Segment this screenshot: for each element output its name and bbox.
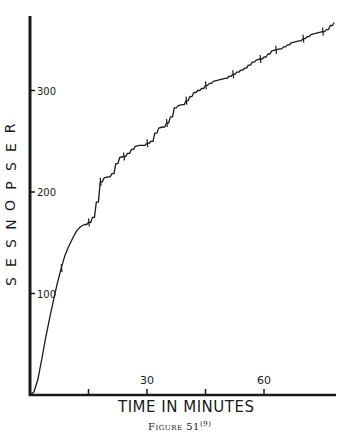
reinforcement-marks <box>61 28 323 272</box>
y-axis-label-letter: P <box>2 182 19 190</box>
y-axis-label-letter: S <box>2 239 19 248</box>
reinforcement-pip <box>260 55 261 63</box>
caption-text: Figure 51 <box>148 421 200 432</box>
y-axis-label-letter: R <box>2 124 19 134</box>
reinforcement-pip <box>323 28 324 36</box>
y-axis-label: RESPONSES <box>2 120 20 290</box>
x-tick-label: 60 <box>257 374 271 387</box>
reinforcement-pip <box>233 70 234 78</box>
response-curve <box>30 23 334 396</box>
y-axis-label-letter: S <box>2 162 19 171</box>
y-axis-label-letter: N <box>2 219 19 229</box>
figure-caption: Figure 51(9) <box>148 420 211 432</box>
y-axis-label-letter: S <box>2 277 19 286</box>
reinforcement-pip <box>61 264 62 272</box>
y-tick-label: 300 <box>37 86 56 97</box>
reinforcement-pip <box>186 97 187 105</box>
x-tick-label: 30 <box>140 374 154 387</box>
y-tick-label: 100 <box>37 289 56 300</box>
axis-ticks <box>30 91 264 396</box>
reinforcement-pip <box>276 46 277 54</box>
reinforcement-pip <box>147 139 148 147</box>
reinforcement-pip <box>167 119 168 127</box>
reinforcement-pip <box>100 178 101 186</box>
y-axis-label-letter: E <box>2 258 19 267</box>
tick-labels: 1002003003060 <box>37 86 271 388</box>
reinforcement-pip <box>89 218 90 226</box>
y-axis-label-letter: E <box>2 143 19 152</box>
caption-reference: (9) <box>200 420 211 428</box>
axes <box>29 16 336 396</box>
reinforcement-pip <box>303 35 304 43</box>
cumulative-record-chart: 1002003003060 <box>0 0 346 440</box>
reinforcement-pip <box>206 81 207 89</box>
x-axis-label: TIME IN MINUTES <box>118 398 254 416</box>
reinforcement-pip <box>124 152 125 160</box>
y-tick-label: 200 <box>37 187 56 198</box>
y-axis-label-letter: O <box>3 199 20 210</box>
